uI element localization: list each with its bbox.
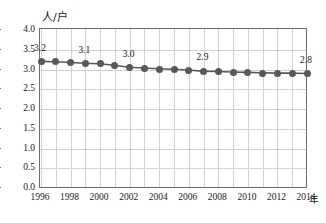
x-axis-tick-label: 2010	[237, 192, 256, 202]
y-axis-tick-mark	[0, 69, 1, 70]
y-axis-tick-mark	[0, 167, 1, 168]
data-point-marker	[156, 66, 163, 73]
y-axis-tick-label: 1.0	[1, 143, 35, 153]
y-axis-tick-label: 2.0	[1, 103, 35, 113]
data-point-marker	[230, 69, 237, 76]
y-axis-tick-mark	[0, 88, 1, 89]
y-axis-tick-mark	[0, 187, 1, 188]
data-point-marker	[38, 58, 45, 65]
x-axis-tick-label: 2000	[90, 192, 109, 202]
x-axis-tick-label: 2002	[119, 192, 138, 202]
data-point-label: 2.8	[300, 55, 312, 65]
y-axis-tick-mark	[0, 128, 1, 129]
data-point-label: 3.0	[123, 49, 135, 59]
y-axis-tick-label: 0.0	[1, 182, 35, 192]
data-point-label: 3.2	[34, 43, 46, 53]
chart-screenshot: 人/户 0.00.51.01.52.02.53.03.54.0 19961998…	[0, 0, 326, 223]
data-point-label: 3.1	[78, 45, 90, 55]
x-axis-tick-label: 2006	[178, 192, 197, 202]
x-axis-tick-label: 2004	[149, 192, 168, 202]
y-axis-tick-label: 3.0	[1, 64, 35, 74]
x-axis-tick-label: 2012	[267, 192, 286, 202]
data-point-label: 2.9	[197, 52, 209, 62]
y-axis-tick-label: 3.5	[1, 44, 35, 54]
data-point-marker	[141, 65, 148, 72]
y-axis-tick-label: 1.5	[1, 123, 35, 133]
x-axis-tick-label: 1998	[60, 192, 79, 202]
y-axis-tick-mark	[0, 49, 1, 50]
y-axis-tick-label: 2.5	[1, 83, 35, 93]
x-axis-tick-label: 1996	[31, 192, 50, 202]
data-point-marker	[171, 66, 178, 73]
y-axis-tick-label: 0.5	[1, 162, 35, 172]
y-axis-tick-mark	[0, 29, 1, 30]
y-axis-tick-mark	[0, 108, 1, 109]
data-point-marker	[185, 67, 192, 74]
data-point-marker	[274, 70, 281, 77]
y-axis-tick-label: 4.0	[1, 24, 35, 34]
data-point-marker	[259, 70, 266, 77]
y-axis-unit-label: 人/户	[42, 8, 68, 24]
data-point-marker	[304, 70, 311, 77]
data-point-marker	[82, 60, 89, 67]
x-axis-tick-label: 2008	[208, 192, 227, 202]
y-axis-tick-mark	[0, 148, 1, 149]
data-point-marker	[289, 70, 296, 77]
data-point-marker	[200, 68, 207, 75]
x-axis-unit-label: 年	[309, 192, 319, 206]
